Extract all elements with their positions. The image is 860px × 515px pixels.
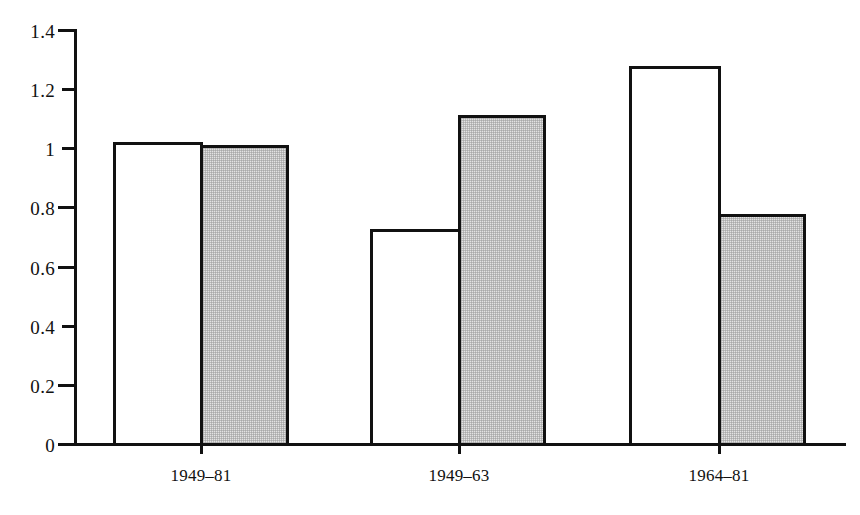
- y-tick-label-0.6: 0.6: [0, 259, 55, 278]
- bar-group-1-shaded: [200, 145, 289, 446]
- bar-group-1-open: [113, 142, 203, 446]
- bar-group-3-open: [629, 66, 721, 446]
- x-tick-1949-63: [458, 443, 461, 454]
- y-tick-1.4: [58, 29, 76, 32]
- y-tick-0.4: [62, 325, 76, 328]
- y-tick-label-0.8: 0.8: [0, 199, 55, 218]
- bar-group-2-shaded: [458, 115, 546, 446]
- bar-group-3-shaded: [718, 214, 806, 446]
- x-axis-line: [58, 443, 846, 446]
- x-tick-label-1964-81: 1964–81: [629, 466, 809, 486]
- y-tick-label-0.4: 0.4: [0, 318, 55, 337]
- x-tick-1949-81: [200, 443, 203, 454]
- x-tick-1964-81: [718, 443, 721, 454]
- x-tick-label-1949-81: 1949–81: [111, 466, 291, 486]
- y-tick-label-1.4: 1.4: [0, 22, 55, 41]
- y-tick-label-1: 1: [0, 140, 55, 159]
- y-tick-label-0.2: 0.2: [0, 377, 55, 396]
- y-tick-label-1.2: 1.2: [0, 81, 55, 100]
- x-tick-label-1949-63: 1949–63: [369, 466, 549, 486]
- y-tick-1.2: [62, 88, 76, 91]
- y-tick-label-0: 0: [0, 436, 55, 455]
- y-tick-0.8: [58, 206, 76, 209]
- y-tick-1: [62, 147, 76, 150]
- y-tick-0.2: [58, 384, 76, 387]
- bar-chart: 1.4 1.2 1 0.8 0.6 0.4 0.2 0 1949–81 1949…: [0, 0, 860, 515]
- bar-group-2-open: [370, 229, 461, 446]
- y-tick-0.6: [58, 266, 76, 269]
